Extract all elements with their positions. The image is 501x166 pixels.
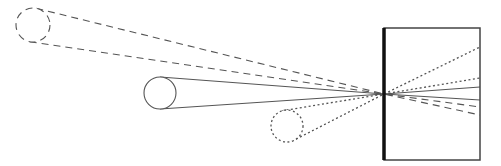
dashed-object-ray: [36, 8, 480, 115]
dashed-object-ray: [30, 42, 480, 107]
solid-object-ray: [160, 87, 480, 109]
dashed-object-circle: [16, 8, 50, 42]
dotted-object-circle: [271, 110, 303, 142]
pinhole-camera-diagram: [0, 0, 501, 166]
solid-object-ray: [160, 77, 480, 100]
object-circles: [16, 8, 303, 142]
dotted-object-ray: [282, 78, 480, 111]
solid-object-circle: [144, 77, 176, 109]
camera-box: [384, 28, 480, 160]
